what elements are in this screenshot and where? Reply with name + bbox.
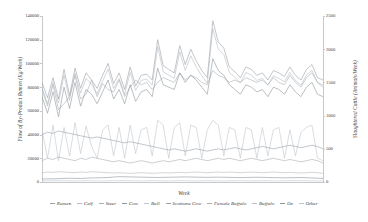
legend-item-label: Other: [306, 201, 318, 206]
legend-item-label: Cow: [129, 201, 138, 206]
y-tick-label-left: 40000: [13, 132, 39, 137]
legend-item-label: Calf: [84, 201, 93, 206]
legend-item-label: Female Buffalo: [214, 201, 246, 206]
legend-line-icon: [122, 203, 127, 204]
y-tick-mark-right: [323, 116, 325, 117]
chart-figure: Flow of By-Product Rumen (Kg/Week) Slaug…: [0, 0, 368, 222]
legend-item-label: Rumen: [57, 201, 71, 206]
y-tick-label-left: 60000: [13, 108, 39, 113]
y-tick-mark-right: [323, 16, 325, 17]
legend-line-icon: [99, 203, 104, 204]
legend-line-icon: [144, 203, 149, 204]
legend-item-bull[interactable]: Bull: [144, 201, 159, 206]
legend-line-icon: [207, 203, 212, 204]
series-line: [42, 177, 323, 179]
y-tick-label-left: 80000: [13, 85, 39, 90]
y-tick-label-left: 120000: [13, 37, 39, 42]
y-tick-mark-right: [323, 49, 325, 50]
legend-line-icon: [50, 203, 55, 204]
legend-item-label: Scottona Cow: [172, 201, 201, 206]
legend-item-label: Buffalo: [259, 201, 274, 206]
series-line: [42, 172, 323, 174]
y-tick-label-left: 0: [13, 179, 39, 184]
legend-item-ox[interactable]: Ox: [280, 201, 293, 206]
series-line: [42, 59, 323, 117]
legend-item-female-buffalo[interactable]: Female Buffalo: [207, 201, 246, 206]
y-tick-label-right: 1500: [326, 80, 352, 85]
y-tick-mark-right: [323, 149, 325, 150]
legend-item-steer[interactable]: Steer: [99, 201, 116, 206]
x-axis-line: [42, 182, 323, 183]
y-axis-title-left: Flow of By-Product Rumen (Kg/Week): [17, 39, 23, 159]
y-tick-label-right: 1000: [326, 113, 352, 118]
series-line: [42, 157, 323, 163]
legend-item-scottona-cow[interactable]: Scottona Cow: [166, 201, 202, 206]
y-tick-mark-right: [323, 182, 325, 183]
y-axis-title-right: Slaughtered Cattle (Animals/Week): [352, 39, 358, 159]
legend-line-icon: [77, 203, 82, 204]
series-canvas: [42, 16, 323, 182]
legend-item-buffalo[interactable]: Buffalo: [252, 201, 274, 206]
legend-item-cow[interactable]: Cow: [122, 201, 138, 206]
legend-item-rumen[interactable]: Rumen: [50, 201, 71, 206]
legend-line-icon: [166, 203, 171, 204]
legend-item-label: Bull: [151, 201, 160, 206]
series-line: [42, 71, 323, 110]
series-line: [42, 29, 323, 104]
y-tick-label-right: 0: [326, 179, 352, 184]
x-axis-title: Week: [0, 190, 368, 196]
y-tick-label-left: 140000: [13, 13, 39, 18]
legend-line-icon: [299, 203, 304, 204]
series-line: [42, 120, 323, 160]
y-tick-label-right: 2500: [326, 13, 352, 18]
y-tick-label-right: 2000: [326, 47, 352, 52]
y-tick-label-right: 500: [326, 146, 352, 151]
legend-line-icon: [280, 203, 285, 204]
y-tick-mark-right: [323, 82, 325, 83]
plot-area: [42, 16, 323, 182]
legend-item-label: Ox: [287, 201, 293, 206]
y-tick-label-left: 20000: [13, 156, 39, 161]
y-tick-mark-left: [40, 182, 42, 183]
series-line: [42, 21, 323, 99]
legend-line-icon: [252, 203, 257, 204]
legend-item-calf[interactable]: Calf: [77, 201, 93, 206]
y-tick-label-left: 100000: [13, 61, 39, 66]
y-axis-right-line: [323, 16, 324, 182]
legend-item-other[interactable]: Other: [299, 201, 318, 206]
legend-item-label: Steer: [105, 201, 116, 206]
chart-legend: RumenCalfSteerCowBullScottona CowFemale …: [0, 201, 368, 206]
